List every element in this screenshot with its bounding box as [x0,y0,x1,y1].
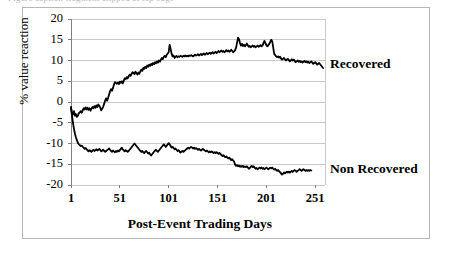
y-tick-label: -5 [37,115,63,130]
x-tick-label: 51 [105,191,135,206]
y-tick-label: 20 [37,11,63,26]
y-tick-label: 5 [37,73,63,88]
y-tick-label: -10 [37,136,63,151]
series-label-recovered: Recovered [330,56,390,72]
chart-figure: Figure caption fragment clipped at top e… [0,0,455,253]
x-tick-label: 151 [203,191,233,206]
y-tick-label: -20 [37,177,63,192]
y-axis-title: % value reaction [14,0,32,136]
x-tick-label: 101 [154,191,184,206]
y-tick-label: -15 [37,156,63,171]
y-tick-label: 15 [37,32,63,47]
series-label-non-recovered: Non Recovered [330,161,418,177]
x-axis-title: Post-Event Trading Days [60,216,340,232]
y-tick-label: 10 [37,53,63,68]
x-tick-label: 201 [251,191,281,206]
y-axis-title-text: % value reaction [16,17,31,104]
x-tick-label: 251 [300,191,330,206]
series-line-recovered [71,38,323,117]
x-tick-label: 1 [56,191,86,206]
y-tick-label: 0 [37,94,63,109]
